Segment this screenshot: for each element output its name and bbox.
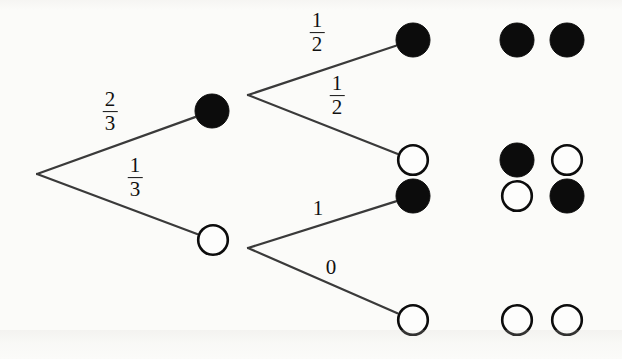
edge-label-one: 1 (313, 198, 324, 219)
fraction-one-half-upper: 1 2 (310, 10, 325, 56)
outcome-black-black-outcome-ball-right (550, 23, 584, 57)
node-white-lower (198, 225, 228, 255)
edge-label-one-half-lower: 1 2 (330, 73, 345, 119)
fraction-denominator: 3 (103, 113, 118, 135)
fraction-numerator: 1 (310, 10, 325, 33)
edge-label-two-thirds: 2 3 (103, 89, 118, 135)
fraction-one-third: 1 3 (128, 155, 143, 201)
fraction-denominator: 3 (128, 179, 143, 201)
fraction-denominator: 2 (310, 34, 325, 56)
edge-root-to-white (37, 174, 197, 234)
nodes-group (195, 23, 584, 335)
outcome-black-black-outcome-ball-left (500, 23, 534, 57)
edge-label-one-half-upper: 1 2 (310, 10, 325, 56)
outcome-white-black-outcome-ball-right (550, 179, 584, 213)
fraction-two-thirds: 2 3 (103, 89, 118, 135)
leaf-4 (398, 305, 428, 335)
edge-label-zero: 0 (326, 257, 337, 278)
fraction-one-half-lower: 1 2 (330, 73, 345, 119)
probability-tree-figure: 2 3 1 3 1 2 1 2 1 0 (0, 0, 622, 359)
outcome-white-black-outcome-ball-left (502, 181, 532, 211)
fraction-numerator: 1 (128, 155, 143, 178)
edge-white-to-white (248, 248, 397, 313)
leaf-2 (398, 145, 428, 175)
fraction-numerator: 2 (103, 89, 118, 112)
edge-black-to-white (248, 95, 397, 154)
outcome-black-white-outcome-ball-left (500, 143, 534, 177)
fraction-denominator: 2 (330, 97, 345, 119)
outcome-white-white-outcome-ball-left (502, 305, 532, 335)
node-black-upper (195, 94, 229, 128)
leaf-3 (396, 179, 430, 213)
outcome-white-white-outcome-ball-right (552, 305, 582, 335)
fraction-numerator: 1 (330, 73, 345, 96)
edge-label-one-third: 1 3 (128, 155, 143, 201)
outcome-black-white-outcome-ball-right (552, 145, 582, 175)
leaf-1 (396, 23, 430, 57)
